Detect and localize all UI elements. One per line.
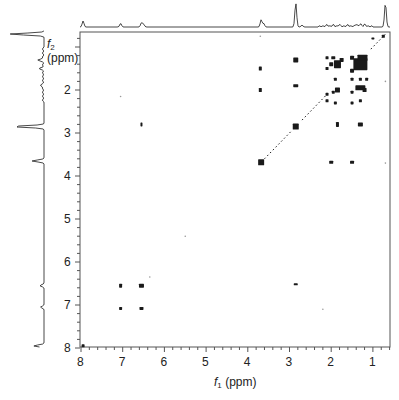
cross-peak bbox=[371, 37, 374, 39]
cross-peak bbox=[334, 60, 341, 68]
y-tick-label: 6 bbox=[64, 256, 71, 268]
y-tick-label: 3 bbox=[64, 127, 71, 139]
faint-peak bbox=[120, 96, 122, 98]
cross-peak bbox=[365, 78, 368, 81]
cross-peak bbox=[335, 88, 340, 93]
cross-peak bbox=[326, 56, 329, 59]
cross-peak bbox=[82, 344, 85, 347]
cross-peak bbox=[332, 91, 335, 94]
cross-peak bbox=[359, 99, 362, 102]
cross-peak bbox=[326, 99, 329, 102]
x-axis-ticks bbox=[81, 347, 390, 352]
cross-peak bbox=[351, 91, 354, 94]
y-tick-label: 4 bbox=[64, 170, 71, 182]
cross-peak bbox=[334, 101, 337, 104]
diagonal-trace bbox=[302, 94, 327, 120]
cross-peak bbox=[259, 67, 262, 71]
cross-peak bbox=[119, 284, 122, 288]
cross-peak bbox=[358, 122, 363, 126]
cross-peaks bbox=[82, 34, 387, 347]
top-projection-spectrum bbox=[80, 4, 390, 27]
cross-peak bbox=[294, 283, 298, 285]
faint-peak bbox=[322, 309, 324, 311]
cross-peak bbox=[293, 124, 299, 130]
cross-peak bbox=[329, 161, 333, 164]
cross-peak bbox=[351, 78, 354, 81]
faint-peak bbox=[385, 81, 387, 83]
y-tick-label: 7 bbox=[64, 299, 71, 311]
cross-peak bbox=[357, 55, 367, 61]
y-axis-unit: (ppm) bbox=[47, 51, 78, 65]
faint-peak bbox=[260, 35, 262, 37]
cross-peak bbox=[326, 67, 329, 70]
x-tick-label: 4 bbox=[244, 356, 251, 368]
cross-peak bbox=[331, 56, 335, 59]
cross-peak bbox=[329, 62, 333, 66]
cross-peak bbox=[350, 56, 354, 60]
plot-frame bbox=[80, 32, 390, 347]
cross-peak bbox=[139, 284, 144, 288]
x-tick-label: 8 bbox=[77, 356, 84, 368]
nmr-cosy-figure: 87654321 2345678 f1 (ppm) f2 (ppm) bbox=[0, 0, 399, 400]
x-axis-title: f1 (ppm) bbox=[214, 376, 256, 390]
x-tick-label: 5 bbox=[202, 356, 209, 368]
y-axis-ticks bbox=[75, 38, 80, 348]
cross-peak bbox=[139, 307, 143, 310]
x-axis-subscript: 1 bbox=[217, 381, 221, 390]
cross-peak bbox=[334, 78, 337, 81]
x-tick-label: 2 bbox=[327, 356, 334, 368]
y-tick-label: 5 bbox=[64, 213, 71, 225]
y-tick-label: 8 bbox=[64, 342, 71, 354]
cross-peak bbox=[351, 101, 354, 104]
cross-peak bbox=[363, 88, 367, 92]
cross-peak bbox=[140, 122, 142, 126]
cross-peak bbox=[293, 57, 298, 62]
cross-peak bbox=[259, 88, 262, 92]
cross-peak bbox=[359, 78, 362, 81]
left-projection-spectrum bbox=[10, 31, 44, 347]
x-tick-label: 1 bbox=[369, 356, 376, 368]
y-tick-label: 2 bbox=[64, 84, 71, 96]
cross-peak bbox=[293, 84, 298, 87]
cross-peak bbox=[350, 161, 354, 164]
x-tick-label: 6 bbox=[160, 356, 167, 368]
x-axis-unit: (ppm) bbox=[225, 375, 256, 389]
cross-peak bbox=[350, 69, 354, 73]
x-tick-label: 3 bbox=[286, 356, 293, 368]
faint-peak bbox=[385, 162, 387, 164]
faint-peak bbox=[149, 276, 151, 278]
diagonal-trace bbox=[264, 131, 291, 159]
cross-peak bbox=[258, 159, 264, 165]
cross-peak bbox=[119, 307, 122, 310]
cross-peak bbox=[336, 122, 339, 127]
y-axis-title: f2 (ppm) bbox=[47, 38, 78, 65]
x-tick-label: 7 bbox=[119, 356, 126, 368]
faint-peak bbox=[184, 235, 186, 237]
